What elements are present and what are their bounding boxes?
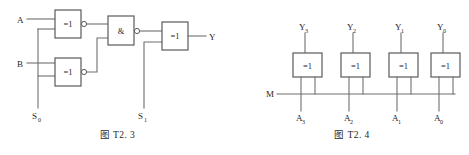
input-a1-subscript: 1 <box>398 119 401 125</box>
xor-gate-top-output-bubble <box>81 21 86 26</box>
output-y3-subscript: 3 <box>305 28 308 34</box>
figure-t2-3: =1 =1 & =1 A B <box>0 0 235 155</box>
input-a2-subscript: 2 <box>350 119 353 125</box>
input-a-label: A <box>17 15 24 25</box>
input-s0-subscript: 0 <box>38 117 41 123</box>
xor-gate-3-label: =1 <box>303 61 312 71</box>
output-y0-subscript: 0 <box>443 28 446 34</box>
xor-gate-1-label: =1 <box>399 61 408 71</box>
input-s1-subscript: 1 <box>144 117 147 123</box>
input-a3-subscript: 3 <box>302 119 305 125</box>
and-gate-output-bubble <box>134 28 139 33</box>
output-y2-subscript: 2 <box>353 28 356 34</box>
output-y1-subscript: 1 <box>401 28 404 34</box>
xor-gate-0-label: =1 <box>441 61 450 71</box>
caption-t2-3: 图 T2. 3 <box>0 127 235 141</box>
figure-sheet: =1 =1 & =1 A B <box>0 0 469 155</box>
caption-t2-4: 图 T2. 4 <box>235 127 469 141</box>
xor-gate-top-label: =1 <box>63 19 72 29</box>
schematic-t2-3: =1 =1 & =1 A B <box>0 0 235 127</box>
xor-gate-bottom-output-bubble <box>81 69 86 74</box>
output-y-label: Y <box>209 32 216 42</box>
input-s1-label: S <box>138 111 143 121</box>
schematic-t2-4: =1 =1 =1 =1 Y 3 Y 2 <box>235 0 469 127</box>
xor-gate-output-label: =1 <box>170 31 179 41</box>
xor-gate-bottom-label: =1 <box>63 67 72 77</box>
input-s0-label: S <box>32 111 37 121</box>
input-b-label: B <box>17 59 23 69</box>
figure-t2-4: =1 =1 =1 =1 Y 3 Y 2 <box>235 0 469 155</box>
input-m-label: M <box>266 89 274 99</box>
input-a0-subscript: 0 <box>440 119 443 125</box>
and-gate-label: & <box>118 26 125 36</box>
wire-s1-to-xor-output <box>144 42 162 108</box>
wire-xor-bottom-to-and <box>87 38 108 72</box>
xor-gate-2-label: =1 <box>351 61 360 71</box>
